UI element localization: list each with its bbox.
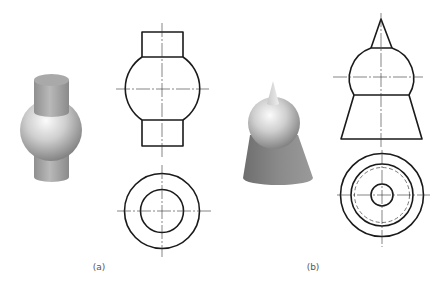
panel-a-label: (a) [93,262,106,272]
figure-canvas [0,0,442,287]
cone-tip [267,81,279,106]
panel-b [243,13,430,247]
solid-3d-a [20,74,82,182]
top-cylinder-cap [34,74,69,86]
cone-outline [371,19,392,48]
sphere-arc-left [125,57,142,120]
sphere-arc-left [349,48,371,95]
panel-a [20,23,212,257]
top-view-b [337,150,430,247]
panel-b-label: (b) [307,262,320,272]
frustum-outline [341,95,422,139]
top-cylinder-outline [142,32,183,57]
sphere-arc-right [392,48,414,95]
top-view-a [117,165,212,257]
front-view-a [116,23,209,157]
bottom-cylinder-outline [142,120,183,146]
sphere-arc-right [183,57,200,120]
solid-3d-b [243,81,313,185]
front-view-b [333,13,423,148]
